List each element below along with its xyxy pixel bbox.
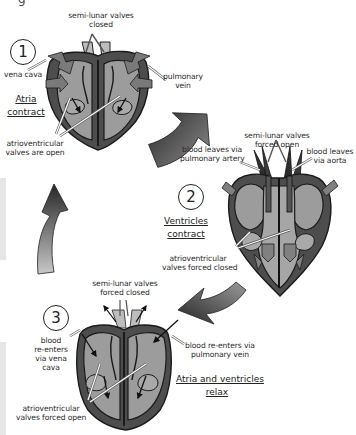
stage-2-av-valves-label: atrioventricular valves forced closed [162, 254, 234, 272]
stage-3-top-label: semi-lunar valves forced closed [90, 279, 160, 297]
heart-stage-2 [222, 146, 338, 296]
stage-1-av-valves-label: atrioventricular valves are open [4, 139, 66, 157]
cycle-arrow-2-to-3-icon [178, 282, 246, 324]
stage-1-vena-cava-label: vena cava [4, 70, 42, 79]
stage-2-pulmonary-artery-label: blood leaves via pulmonary artery [180, 145, 244, 163]
stage-2-top-label: semi-lunar valves forced open [242, 131, 312, 149]
stage-3-number: 3 [43, 305, 69, 331]
heart-stage-3 [77, 306, 178, 430]
stage-1-top-label: semi-lunar valves closed [66, 11, 136, 29]
stage-3-pulmonary-vein-label: blood re-enters via pulmonary vein [184, 341, 256, 359]
stage-1-number: 1 [10, 39, 36, 65]
stage-3-vena-cava-label: blood re-enters via vena cava [30, 336, 72, 372]
stage-2-aorta-label: blood leaves via aorta [306, 147, 354, 165]
stage-3-av-valves-label: atrioventricular valves forced open [16, 404, 86, 422]
stage-2-number: 2 [178, 184, 204, 210]
stage-3-title: Atria and ventricles relax [176, 373, 258, 399]
stage-2-title: Ventricles contract [160, 215, 212, 241]
stage-1-pulmonary-vein-label: pulmonary vein [160, 72, 206, 90]
cycle-arrow-3-to-1-icon [38, 184, 69, 274]
stage-1-title: Atria contract [6, 93, 46, 119]
